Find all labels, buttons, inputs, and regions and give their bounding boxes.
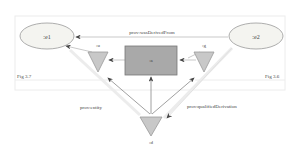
qualified-derivation-label: prov:qualifiedDerivation xyxy=(187,104,237,109)
generation-g-label: :g xyxy=(202,43,206,48)
prov-derivation-diagram: :e1 :e2 :a :u :g :d prov:wasDerivedFrom … xyxy=(0,0,301,156)
entity-e2-label: :e2 xyxy=(252,34,259,40)
was-derived-from-label: prov:wasDerivedFrom xyxy=(129,30,174,35)
derivation-d[interactable] xyxy=(140,117,162,136)
left-figure-caption: Fig 3.7 xyxy=(17,74,32,79)
edge-entity xyxy=(108,78,150,114)
right-figure-caption: Fig 3.6 xyxy=(265,74,280,79)
derivation-d-label: :d xyxy=(149,140,153,145)
entity-e1-label: :e1 xyxy=(43,34,50,40)
usage-u-label: :u xyxy=(96,43,100,48)
entity-edge-label: prov:entity xyxy=(80,105,102,110)
